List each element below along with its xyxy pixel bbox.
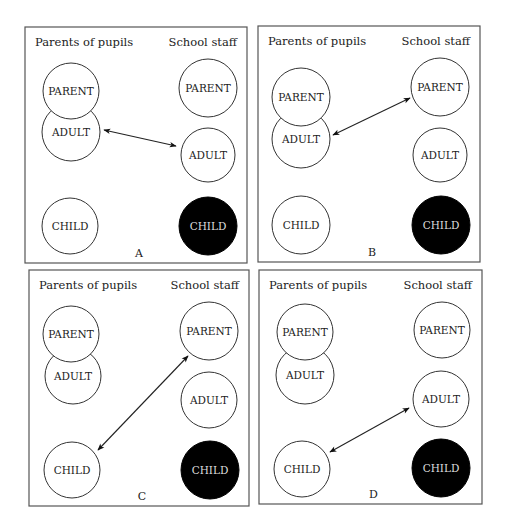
staff-parent-node: PARENT [180, 302, 238, 360]
panels-layer: Parents of pupilsSchool staffADULTPARENT… [25, 26, 482, 506]
staff-adult-label: ADULT [421, 393, 460, 405]
parents-parent-label: PARENT [278, 91, 323, 103]
parents-child-label: CHILD [284, 463, 321, 475]
parents-child-node: CHILD [272, 196, 330, 254]
staff-child-label: CHILD [190, 220, 227, 232]
panel-letter: A [134, 247, 144, 260]
diagram-canvas: Parents of pupilsSchool staffADULTPARENT… [0, 0, 506, 532]
parents-child-node: CHILD [42, 198, 98, 254]
staff-adult-node: ADULT [413, 128, 467, 182]
header-parents-of-pupils: Parents of pupils [268, 34, 366, 48]
header-parents-of-pupils: Parents of pupils [35, 35, 133, 49]
staff-parent-node: PARENT [179, 59, 237, 117]
panel-letter: D [369, 488, 378, 501]
staff-child-node: CHILD [181, 441, 239, 499]
header-school-staff: School staff [404, 278, 473, 292]
staff-adult-label: ADULT [420, 149, 459, 161]
parents-adult-label: ADULT [281, 133, 320, 145]
header-school-staff: School staff [169, 35, 238, 49]
header-school-staff: School staff [171, 278, 240, 292]
header-parents-of-pupils: Parents of pupils [39, 278, 137, 292]
staff-adult-label: ADULT [189, 394, 228, 406]
panel-d: Parents of pupilsSchool staffADULTPARENT… [259, 270, 482, 504]
parents-adult-label: ADULT [285, 369, 324, 381]
parents-parent-label: PARENT [48, 85, 93, 97]
parents-parent-node: PARENT [272, 68, 330, 126]
parents-parent-node: PARENT [43, 306, 99, 362]
panel-c: Parents of pupilsSchool staffADULTPARENT… [29, 270, 249, 506]
staff-parent-node: PARENT [414, 302, 470, 358]
staff-parent-node: PARENT [411, 58, 469, 116]
parents-child-label: CHILD [54, 464, 91, 476]
parents-child-label: CHILD [52, 220, 89, 232]
staff-child-node: CHILD [412, 196, 470, 254]
parents-adult-label: ADULT [53, 370, 92, 382]
staff-parent-label: PARENT [417, 81, 462, 93]
parents-parent-label: PARENT [48, 328, 93, 340]
parents-parent-node: PARENT [277, 304, 333, 360]
staff-adult-node: ADULT [181, 128, 235, 182]
parents-adult-label: ADULT [51, 126, 90, 138]
parents-child-node: CHILD [44, 442, 100, 498]
panel-letter: C [138, 490, 146, 503]
staff-parent-label: PARENT [185, 82, 230, 94]
parents-child-label: CHILD [283, 219, 320, 231]
parents-child-node: CHILD [274, 441, 330, 497]
transaction-diagram-figure: Parents of pupilsSchool staffADULTPARENT… [0, 0, 506, 532]
panel-letter: B [368, 246, 376, 259]
header-school-staff: School staff [402, 34, 471, 48]
staff-adult-node: ADULT [181, 372, 237, 428]
staff-child-label: CHILD [423, 219, 460, 231]
panel-a: Parents of pupilsSchool staffADULTPARENT… [25, 27, 247, 263]
parents-parent-label: PARENT [282, 326, 327, 338]
staff-adult-label: ADULT [188, 149, 227, 161]
staff-parent-label: PARENT [419, 324, 464, 336]
staff-adult-node: ADULT [413, 371, 469, 427]
staff-child-label: CHILD [192, 464, 229, 476]
panel-b: Parents of pupilsSchool staffADULTPARENT… [258, 26, 480, 262]
staff-child-label: CHILD [423, 462, 460, 474]
staff-child-node: CHILD [412, 439, 470, 497]
parents-parent-node: PARENT [43, 63, 99, 119]
staff-child-node: CHILD [179, 197, 237, 255]
staff-parent-label: PARENT [186, 325, 231, 337]
header-parents-of-pupils: Parents of pupils [269, 278, 367, 292]
